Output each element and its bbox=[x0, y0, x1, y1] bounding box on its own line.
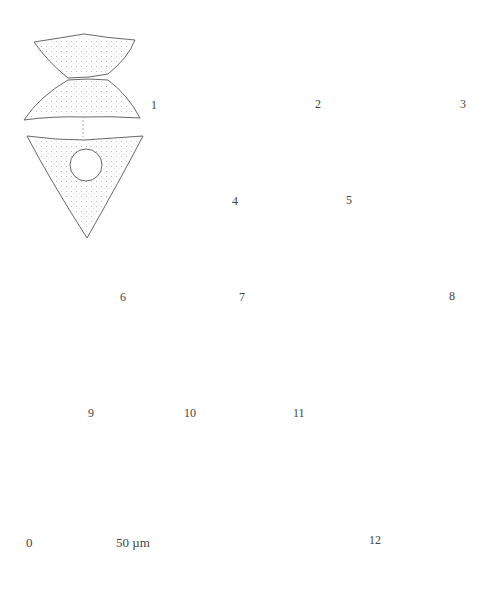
figure-label-3: 3 bbox=[460, 97, 466, 112]
figure-label-12: 12 bbox=[369, 533, 381, 548]
figure-label-4: 4 bbox=[232, 194, 238, 209]
figure-1-front-view bbox=[24, 34, 143, 238]
figure-label-6: 6 bbox=[120, 290, 126, 305]
figure-label-11: 11 bbox=[293, 406, 305, 421]
figure-label-9: 9 bbox=[88, 406, 94, 421]
figure-label-7: 7 bbox=[239, 290, 245, 305]
scale-end-label: 50 µm bbox=[116, 535, 150, 551]
figure-label-1: 1 bbox=[151, 98, 157, 113]
figure-label-5: 5 bbox=[346, 193, 352, 208]
figure-label-2: 2 bbox=[315, 97, 321, 112]
scale-start-label: 0 bbox=[26, 535, 33, 551]
figure-label-8: 8 bbox=[449, 289, 455, 304]
figure-label-10: 10 bbox=[184, 406, 196, 421]
